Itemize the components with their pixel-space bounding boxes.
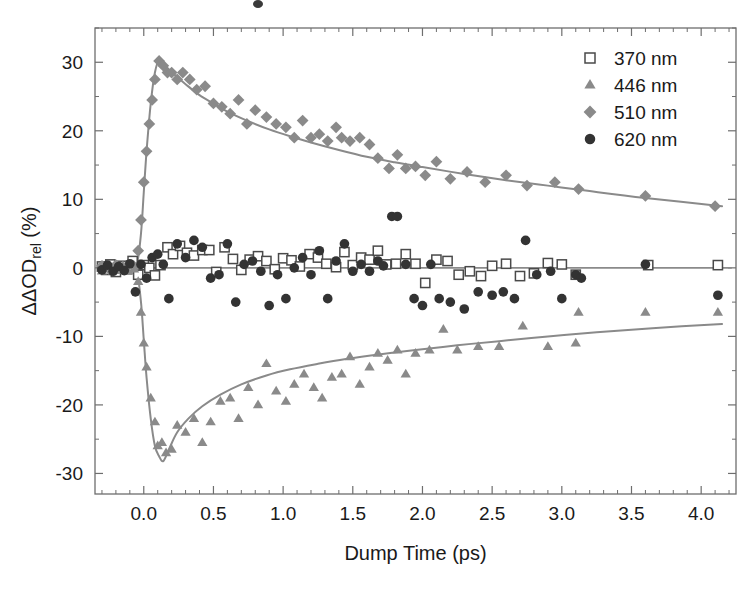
data-point — [143, 118, 155, 130]
data-point — [289, 379, 299, 388]
data-point — [273, 270, 283, 280]
data-point — [473, 287, 483, 297]
data-point — [459, 304, 469, 314]
y-tick-label: -10 — [56, 326, 83, 347]
x-tick-label: 2.5 — [479, 503, 505, 524]
data-point — [336, 369, 346, 378]
data-point — [364, 139, 376, 151]
data-point — [330, 121, 342, 133]
data-point — [494, 341, 504, 350]
data-point — [297, 115, 309, 127]
data-point — [426, 260, 436, 270]
data-point — [309, 382, 319, 391]
data-point — [340, 239, 350, 249]
data-point — [206, 273, 216, 283]
data-point — [355, 379, 365, 388]
data-point — [280, 121, 292, 133]
x-tick-label: 3.0 — [549, 503, 575, 524]
x-axis-title: Dump Time (ps) — [344, 542, 486, 564]
data-point — [401, 369, 411, 378]
data-point — [136, 307, 146, 316]
data-point — [153, 249, 163, 259]
data-point — [331, 256, 341, 266]
data-point — [401, 260, 411, 270]
data-point — [131, 287, 141, 297]
data-point — [172, 420, 182, 429]
x-tick-label: 4.0 — [688, 503, 714, 524]
data-point — [576, 273, 586, 283]
y-tick-label: 20 — [62, 121, 83, 142]
data-point — [557, 294, 567, 304]
chart-figure: 0.00.51.01.52.02.53.03.54.0 -30-20-10010… — [0, 0, 750, 589]
series-446-nm — [97, 260, 723, 456]
data-point — [264, 301, 274, 311]
data-point — [543, 258, 552, 267]
data-point — [365, 266, 375, 276]
data-point — [249, 104, 261, 116]
legend-label: 446 nm — [614, 75, 677, 96]
data-point — [340, 247, 349, 256]
data-point — [411, 259, 420, 268]
data-point — [421, 278, 430, 287]
data-point — [197, 437, 207, 446]
data-point — [281, 396, 291, 405]
data-point — [641, 260, 651, 270]
x-tick-label: 0.5 — [200, 503, 226, 524]
data-point — [640, 190, 652, 202]
data-point — [419, 169, 431, 181]
data-point — [256, 266, 266, 276]
data-point — [146, 94, 158, 106]
data-point — [322, 259, 331, 268]
data-point — [135, 214, 147, 226]
x-tick-label: 2.0 — [409, 503, 435, 524]
data-point — [231, 297, 241, 307]
data-point — [327, 372, 337, 381]
data-point — [150, 271, 159, 280]
data-point — [476, 271, 485, 280]
data-point — [141, 145, 153, 157]
y-tick-label: 10 — [62, 189, 83, 210]
data-point — [713, 290, 723, 300]
data-point — [261, 111, 273, 123]
data-point — [172, 239, 182, 249]
data-point — [543, 341, 553, 350]
data-point — [136, 260, 146, 270]
data-point — [197, 242, 207, 252]
y-tick-label: 0 — [72, 258, 83, 279]
data-point — [317, 393, 327, 402]
data-point — [443, 256, 452, 265]
fit-curve — [98, 266, 722, 461]
data-point — [438, 324, 448, 333]
data-point — [233, 413, 243, 422]
data-point — [557, 260, 566, 269]
legend-marker — [585, 53, 595, 63]
data-point — [125, 259, 135, 269]
data-point — [515, 271, 524, 280]
data-point — [461, 166, 473, 178]
x-tick-label: 1.5 — [340, 503, 366, 524]
data-point — [298, 253, 308, 263]
data-point — [487, 290, 497, 300]
data-point — [391, 259, 400, 268]
legend-label: 370 nm — [614, 48, 677, 69]
data-point — [270, 118, 282, 130]
data-point — [228, 254, 237, 263]
data-point — [488, 261, 497, 270]
data-point — [214, 270, 224, 280]
legend: 370 nm446 nm510 nm620 nm — [584, 48, 678, 150]
data-point — [640, 307, 650, 316]
data-point — [323, 294, 333, 304]
data-point — [248, 256, 258, 266]
data-point — [392, 345, 402, 354]
data-point — [206, 417, 216, 426]
data-point — [379, 261, 389, 271]
data-point — [409, 294, 419, 304]
data-point — [149, 74, 161, 86]
data-point — [709, 200, 721, 212]
data-point — [158, 260, 168, 270]
data-point — [239, 260, 249, 270]
data-point — [454, 270, 463, 279]
data-point — [571, 338, 581, 347]
data-point — [164, 294, 174, 304]
data-point — [498, 287, 508, 297]
